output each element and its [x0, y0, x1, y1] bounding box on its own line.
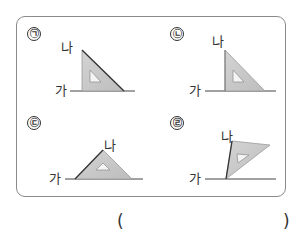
- panel-1-figure: [70, 50, 135, 91]
- figures: [0, 0, 301, 243]
- label-na: 나: [212, 35, 224, 49]
- label-ga: 가: [189, 84, 201, 98]
- panel-4-figure: [205, 141, 276, 179]
- panel-2-figure: [205, 50, 276, 91]
- label-na: 나: [104, 139, 116, 153]
- panel-1-marker: ㉠: [27, 27, 41, 41]
- close-paren: ): [283, 211, 290, 231]
- panel-3-figure: [65, 150, 143, 179]
- open-paren: (: [117, 211, 124, 231]
- label-na: 나: [61, 41, 73, 55]
- panel-2-marker: ㉡: [170, 27, 184, 41]
- answer-blank[interactable]: [130, 210, 280, 232]
- panel-4-marker: ㉣: [170, 116, 184, 130]
- label-ga: 가: [55, 84, 67, 98]
- label-na: 나: [221, 130, 233, 144]
- set-square: [225, 50, 265, 91]
- panel-3-marker: ㉢: [27, 116, 41, 130]
- label-ga: 가: [189, 172, 201, 186]
- set-square: [226, 141, 270, 179]
- label-ga: 가: [49, 172, 61, 186]
